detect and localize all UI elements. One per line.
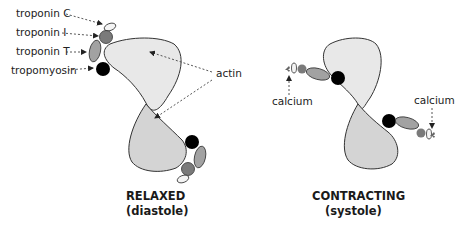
troponin-t-upper	[87, 39, 102, 63]
troponin-c-upper-contracting	[292, 63, 297, 73]
label-calcium-right: calcium	[414, 94, 455, 106]
troponin-i-upper	[100, 31, 113, 44]
label-troponin-i: troponin I	[16, 26, 66, 38]
label-calcium-left: calcium	[272, 95, 313, 107]
troponin-c-lower-contracting	[427, 129, 432, 139]
relaxed-subtitle: (diastole)	[126, 204, 188, 218]
actin-lower-contracting	[344, 104, 397, 169]
relaxed-panel: troponin C troponin I troponin T tropomy…	[11, 7, 242, 218]
label-troponin-t: troponin T	[16, 45, 70, 57]
troponin-t-lower-contracting	[394, 115, 420, 132]
troponin-i-lower-contracting	[417, 129, 426, 138]
actin-lower-relaxed	[129, 104, 186, 171]
contracting-title: CONTRACTING	[312, 189, 405, 203]
tropomyosin-lower-contracting	[382, 114, 396, 128]
troponin-i-upper-contracting	[298, 65, 307, 74]
actin-upper-relaxed	[104, 38, 181, 110]
tropomyosin-lower	[185, 135, 199, 149]
calcium-upper-icon	[285, 66, 290, 72]
tropomyosin-upper	[96, 62, 110, 76]
tropomyosin-upper-contracting	[331, 71, 345, 85]
troponin-t-lower	[192, 145, 207, 169]
contracting-subtitle: (systole)	[325, 204, 382, 218]
relaxed-title: RELAXED	[126, 189, 185, 203]
label-actin: actin	[216, 67, 242, 79]
actin-upper-contracting	[323, 38, 381, 109]
troponin-i-lower	[182, 163, 195, 176]
contracting-panel: calcium calcium CONTRACTING (systole)	[272, 38, 455, 218]
label-troponin-c: troponin C	[16, 7, 71, 19]
label-tropomyosin: tropomyosin	[11, 64, 77, 76]
troponin-diagram: troponin C troponin I troponin T tropomy…	[0, 0, 460, 228]
